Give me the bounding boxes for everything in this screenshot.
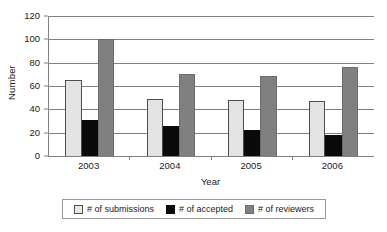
bar-2003-accepted xyxy=(82,120,98,156)
bar-2003-reviewers xyxy=(98,39,114,156)
bar-2006-reviewers xyxy=(342,67,358,156)
bar-2004-reviewers xyxy=(179,74,195,156)
bar-group-bars xyxy=(65,16,114,156)
legend-item-label: # of reviewers xyxy=(258,204,314,214)
chart-legend: # of submissions# of accepted# of review… xyxy=(62,199,326,219)
legend-swatch-icon xyxy=(166,205,175,214)
legend-swatch-icon xyxy=(74,205,83,214)
y-tick-label-40: 40 xyxy=(29,105,40,115)
x-axis-title-label: Year xyxy=(201,176,220,187)
bar-2005-accepted xyxy=(244,130,260,156)
y-tick-label-100: 100 xyxy=(24,35,40,45)
x-tick-label-2006: 2006 xyxy=(292,160,373,171)
bar-chart: Number 020406080100120 2003200420052006 … xyxy=(0,0,387,232)
bar-2006-submissions xyxy=(309,101,325,156)
bar-2006-accepted xyxy=(325,135,341,156)
legend-item-accepted[interactable]: # of accepted xyxy=(166,204,233,214)
y-tick-label-20: 20 xyxy=(29,128,40,138)
x-tick-label-2004: 2004 xyxy=(129,160,210,171)
legend-item-label: # of accepted xyxy=(179,204,233,214)
bar-2004-submissions xyxy=(147,99,163,156)
legend-swatch-icon xyxy=(245,205,254,214)
bar-group-bars xyxy=(147,16,196,156)
y-tick-label-0: 0 xyxy=(35,151,40,161)
y-axis-tick-labels: 020406080100120 xyxy=(18,16,44,156)
bar-group-bars xyxy=(309,16,358,156)
legend-item-label: # of submissions xyxy=(87,204,154,214)
x-axis-title: Year xyxy=(48,176,373,187)
bar-group-2005 xyxy=(212,16,293,156)
y-tick-label-80: 80 xyxy=(29,58,40,68)
bar-groups xyxy=(49,16,374,156)
x-tick-label-2005: 2005 xyxy=(211,160,292,171)
bar-2005-submissions xyxy=(228,100,244,156)
legend-item-reviewers[interactable]: # of reviewers xyxy=(245,204,314,214)
bar-2005-reviewers xyxy=(260,76,276,157)
x-tick-label-2003: 2003 xyxy=(48,160,129,171)
legend-item-submissions[interactable]: # of submissions xyxy=(74,204,154,214)
bar-group-2003 xyxy=(49,16,130,156)
bar-group-bars xyxy=(228,16,277,156)
y-axis-title-label: Number xyxy=(6,65,17,100)
bar-2004-accepted xyxy=(163,126,179,156)
x-axis-tick-labels: 2003200420052006 xyxy=(48,160,373,171)
bar-2003-submissions xyxy=(65,80,81,156)
bar-group-2006 xyxy=(293,16,374,156)
plot-area xyxy=(48,16,374,157)
y-tick-label-120: 120 xyxy=(24,11,40,21)
y-tick-label-60: 60 xyxy=(29,81,40,91)
bar-group-2004 xyxy=(130,16,211,156)
